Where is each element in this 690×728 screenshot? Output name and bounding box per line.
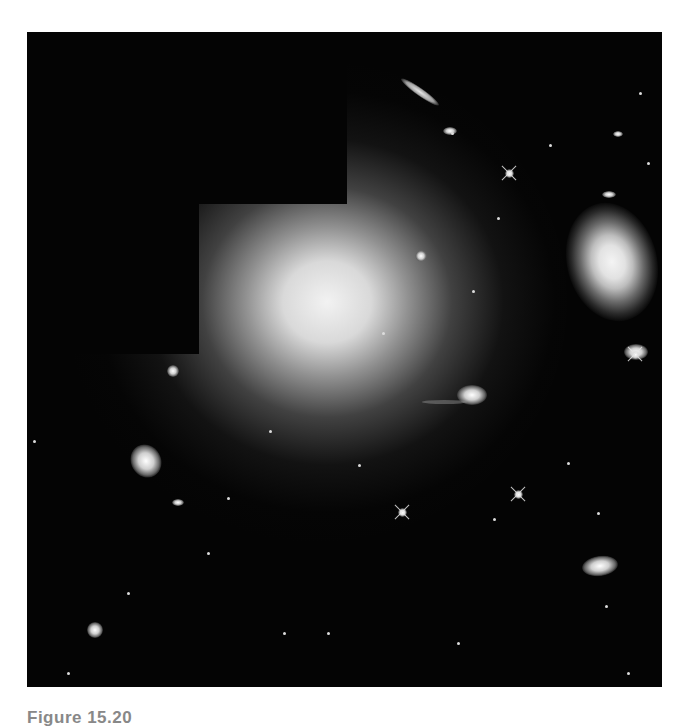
star [67, 672, 70, 675]
star [127, 592, 130, 595]
star [605, 605, 608, 608]
star [451, 132, 454, 135]
star [33, 440, 36, 443]
spiral-galaxy [553, 192, 662, 331]
figure-label: Figure 15.20 [27, 708, 132, 727]
small-galaxy [443, 127, 457, 135]
dark-mask-top [27, 32, 347, 204]
round-galaxy [87, 622, 103, 638]
star [382, 332, 385, 335]
star [472, 290, 475, 293]
round-galaxy [415, 250, 427, 262]
star [567, 462, 570, 465]
dark-mask-left [27, 204, 199, 354]
disk-galaxy [581, 554, 619, 579]
round-galaxy [167, 365, 179, 377]
star [269, 430, 272, 433]
star [283, 632, 286, 635]
star [549, 144, 552, 147]
star [457, 642, 460, 645]
star [207, 552, 210, 555]
star [493, 518, 496, 521]
figure-caption: Figure 15.20 [27, 708, 132, 728]
star [497, 217, 500, 220]
galaxy-cluster-image [27, 32, 662, 687]
star [327, 632, 330, 635]
star [227, 497, 230, 500]
small-galaxy [602, 191, 616, 198]
small-galaxy [613, 131, 623, 137]
star [647, 162, 650, 165]
star [639, 92, 642, 95]
tidal-tail [422, 400, 467, 404]
star [358, 464, 361, 467]
star [597, 512, 600, 515]
small-galaxy [172, 499, 184, 506]
star [627, 672, 630, 675]
